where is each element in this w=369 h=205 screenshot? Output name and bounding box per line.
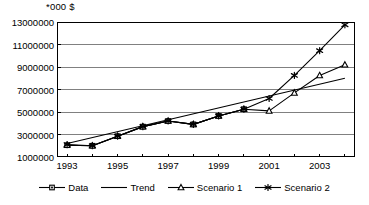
legend-marker <box>178 184 184 189</box>
series-line <box>67 78 345 143</box>
y-axis-tick-label: 1000000 <box>17 152 54 163</box>
square-marker-icon <box>39 182 65 193</box>
y-axis-tick-labels: 1000000300000050000007000000900000011000… <box>0 22 54 157</box>
legend-label: Scenario 2 <box>284 182 329 193</box>
legend-item-data[interactable]: Data <box>39 182 88 193</box>
series-line <box>67 25 345 146</box>
x-axis-tick-label: 1997 <box>158 160 179 171</box>
chart-legend: DataTrendScenario 1Scenario 2 <box>0 182 369 193</box>
y-axis-tick-label: 5000000 <box>17 107 54 118</box>
data-point <box>342 62 348 67</box>
x-axis-tick-label: 2001 <box>259 160 280 171</box>
triangle-marker-icon <box>168 182 194 193</box>
series-scenario-1 <box>64 62 348 148</box>
legend-item-trend[interactable]: Trend <box>101 182 154 193</box>
legend-item-scenario-2[interactable]: Scenario 2 <box>255 182 329 193</box>
legend-label: Scenario 1 <box>197 182 242 193</box>
data-point <box>266 108 272 113</box>
legend-marker <box>51 187 53 189</box>
x-axis-tick-labels: 199319951997199920012003 <box>57 160 355 174</box>
data-point <box>317 72 323 77</box>
x-axis-tick-label: 1993 <box>57 160 78 171</box>
y-axis-unit-label: *000 $ <box>46 1 75 12</box>
y-axis-tick-label: 9000000 <box>17 62 54 73</box>
x-axis-tick-label: 1995 <box>107 160 128 171</box>
y-axis-tick-label: 7000000 <box>17 84 54 95</box>
asterisk-marker-icon <box>255 182 281 193</box>
plot-area <box>57 22 355 157</box>
y-axis-tick-label: 3000000 <box>17 129 54 140</box>
y-axis-tick-label: 11000000 <box>12 39 54 50</box>
chart-container: *000 $ 100000030000005000000700000090000… <box>0 0 369 205</box>
legend-label: Data <box>68 182 88 193</box>
y-axis-tick-label: 13000000 <box>12 17 54 28</box>
series-trend <box>67 78 345 143</box>
line-icon <box>101 182 127 193</box>
legend-label: Trend <box>130 182 154 193</box>
legend-item-scenario-1[interactable]: Scenario 1 <box>168 182 242 193</box>
plot-svg <box>57 22 355 157</box>
x-axis-tick-label: 1999 <box>208 160 229 171</box>
x-axis-tick-label: 2003 <box>309 160 330 171</box>
